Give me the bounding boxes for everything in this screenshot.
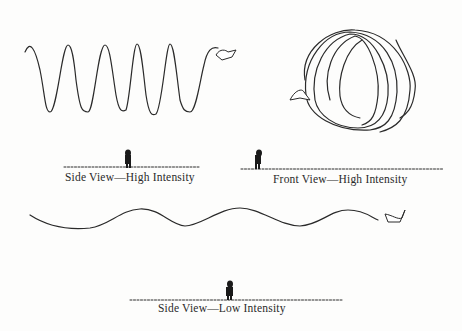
high-intensity-flight-path: [25, 44, 218, 115]
illustration-canvas: Side View—High Intensity Front View—High…: [0, 0, 462, 331]
observer-figure-1: [125, 150, 131, 169]
caption-side-low: Side View—Low Intensity: [158, 302, 286, 314]
bird-icon-1: [216, 50, 236, 60]
caption-front-high: Front View—High Intensity: [273, 173, 407, 185]
low-intensity-flight-path: [30, 208, 378, 229]
bird-icon-2: [290, 90, 310, 100]
caption-side-high: Side View—High Intensity: [65, 171, 195, 183]
line-drawing: [0, 0, 462, 331]
observer-figure-3: [226, 281, 233, 301]
front-view-loops: [304, 30, 415, 132]
bird-icon-3: [385, 210, 405, 222]
observer-figure-2: [255, 150, 262, 170]
